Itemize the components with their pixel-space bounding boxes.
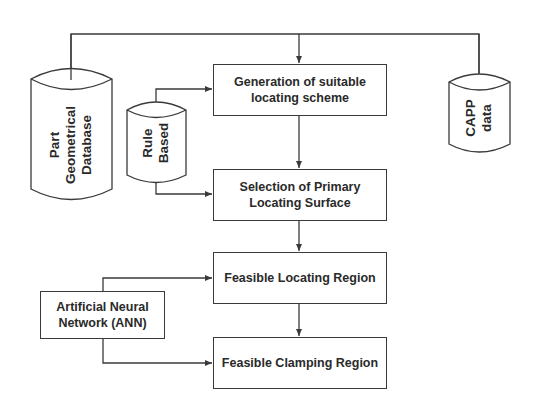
db-label-line: Part bbox=[47, 106, 63, 184]
box-label-line: Generation of suitable bbox=[234, 74, 366, 90]
db-label-line: Rule bbox=[140, 123, 156, 164]
db-label-line: Database bbox=[79, 106, 95, 184]
db-label-line: data bbox=[479, 99, 495, 137]
artificial-neural-network-box: Artificial Neural Network (ANN) bbox=[40, 291, 165, 339]
feasible-locating-region-box: Feasible Locating Region bbox=[213, 252, 387, 304]
edge-ann-to-locating bbox=[103, 278, 212, 291]
box-label: Feasible Locating Region bbox=[224, 270, 375, 286]
box-label-line: Selection of Primary bbox=[240, 179, 361, 195]
edge-rule-to-selection bbox=[156, 182, 212, 194]
db-label-line: Based bbox=[156, 123, 172, 164]
box-label-line: Artificial Neural bbox=[56, 299, 148, 315]
feasible-clamping-region-box: Feasible Clamping Region bbox=[213, 337, 387, 389]
generation-of-locating-scheme-box: Generation of suitable locating scheme bbox=[213, 64, 387, 116]
box-label: Feasible Clamping Region bbox=[222, 355, 378, 371]
part-geometrical-database-label: Part Geometrical Database bbox=[41, 95, 101, 195]
box-label-line: Network (ANN) bbox=[56, 315, 148, 331]
selection-of-primary-surface-box: Selection of Primary Locating Surface bbox=[213, 169, 387, 221]
flowchart-canvas: Part Geometrical Database Rule Based CAP… bbox=[0, 0, 537, 409]
box-label-line: Locating Surface bbox=[240, 195, 361, 211]
box-label-line: locating scheme bbox=[234, 90, 366, 106]
db-label-line: CAPP bbox=[463, 99, 479, 137]
capp-data-label: CAPP data bbox=[459, 88, 499, 148]
edge-ann-to-clamping bbox=[103, 338, 212, 363]
db-label-line: Geometrical bbox=[63, 106, 79, 184]
rule-based-label: Rule Based bbox=[136, 113, 176, 173]
